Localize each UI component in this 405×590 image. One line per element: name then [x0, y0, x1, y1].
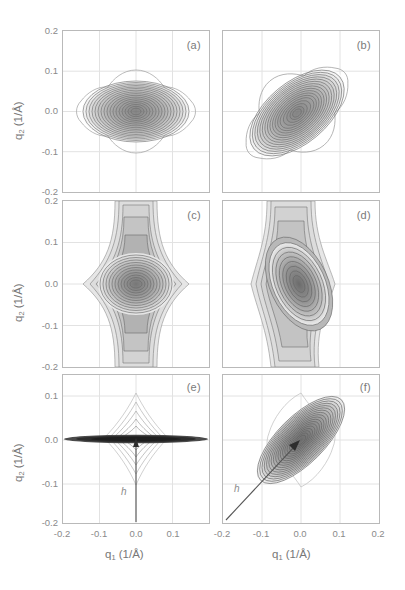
x-tick-right-2: 0.0	[286, 528, 314, 539]
x-tick-left-2: 0.0	[122, 528, 150, 539]
y-tick-row3-2: 0.0	[28, 434, 58, 445]
y-axis-title-row3: q2 (1/Å)	[12, 443, 26, 482]
x-tick-left-0: -0.2	[48, 528, 76, 539]
panel-a: (a)	[62, 30, 210, 193]
y-tick-row2-0: 0.2	[28, 195, 58, 206]
panel-label-c: (c)	[187, 209, 201, 221]
y-tick-row3-1: 0.1	[28, 390, 58, 401]
panel-label-e: (e)	[187, 381, 201, 393]
panel-d: (d)	[222, 200, 380, 368]
y-axis-title-unit: (1/Å)	[12, 283, 24, 311]
panel-label-b: (b)	[357, 39, 371, 51]
y-axis-title-symbol: q	[12, 316, 24, 322]
y-tick-row2-2: 0.0	[28, 278, 58, 289]
y-tick-row2-1: 0.1	[28, 236, 58, 247]
panel-label-d: (d)	[357, 209, 371, 221]
y-tick-row2-4: -0.2	[28, 361, 58, 372]
x-tick-left-1: -0.1	[85, 528, 113, 539]
y-tick-row2-3: -0.1	[28, 320, 58, 331]
y-axis-title-subscript: 2	[17, 129, 26, 133]
y-axis-title-symbol: q	[12, 134, 24, 140]
panel-f: (f) h	[222, 374, 380, 524]
y-tick-row1-2: 0.0	[28, 105, 58, 116]
y-axis-title-unit: (1/Å)	[12, 443, 24, 471]
y-axis-title-unit: (1/Å)	[12, 101, 24, 129]
contours-d	[251, 201, 346, 367]
x-axis-title-unit: (1/Å)	[283, 548, 311, 560]
x-axis-title-left: q1 (1/Å)	[105, 548, 144, 562]
x-axis-title-unit: (1/Å)	[116, 548, 144, 560]
panel-b: (b)	[222, 30, 380, 193]
figure-root: (a)	[0, 0, 405, 590]
contours-c	[83, 201, 189, 367]
panel-e: (e) h	[62, 374, 210, 524]
h-vector-label-e: h	[121, 486, 127, 497]
y-axis-title-subscript: 2	[17, 471, 26, 475]
panel-label-f: (f)	[360, 381, 371, 393]
y-tick-row1-0: 0.2	[28, 25, 58, 36]
y-axis-title-subscript: 2	[17, 311, 26, 315]
x-tick-right-4: 0.2	[364, 528, 392, 539]
x-tick-left-3: 0.1	[159, 528, 187, 539]
x-axis-title-right: q1 (1/Å)	[272, 548, 311, 562]
x-tick-right-3: 0.1	[325, 528, 353, 539]
y-tick-row1-3: -0.1	[28, 146, 58, 157]
y-tick-row3-3: -0.1	[28, 478, 58, 489]
y-axis-title-row2: q2 (1/Å)	[12, 283, 26, 322]
y-axis-title-row1: q2 (1/Å)	[12, 101, 26, 140]
x-tick-right-1: -0.1	[247, 528, 275, 539]
y-axis-title-symbol: q	[12, 476, 24, 482]
x-tick-right-0: -0.2	[208, 528, 236, 539]
contours-b	[223, 41, 372, 186]
y-tick-row3-4: -0.2	[28, 517, 58, 528]
panel-c: (c)	[62, 200, 210, 368]
panel-label-a: (a)	[187, 39, 201, 51]
y-tick-row1-1: 0.1	[28, 65, 58, 76]
h-vector-label-f: h	[234, 483, 240, 494]
contours-a	[77, 70, 196, 153]
